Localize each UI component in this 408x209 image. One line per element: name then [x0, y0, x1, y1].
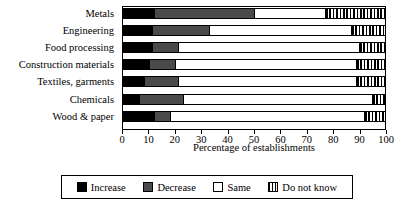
bar-segment-same: [209, 26, 350, 35]
bar-row: [122, 111, 386, 122]
legend-item-increase[interactable]: Increase: [77, 182, 126, 193]
legend-swatch-decrease-icon: [143, 182, 153, 192]
legend-label: Do not know: [282, 182, 337, 193]
stacked-bar: [122, 94, 386, 105]
bar-segment-same: [178, 43, 359, 52]
stacked-bar: [122, 8, 386, 19]
bar-segment-increase: [123, 60, 149, 69]
bar-segment-same: [254, 9, 325, 18]
bar-segment-do-not-know: [325, 9, 385, 18]
stacked-bar: [122, 76, 386, 87]
bar-row: [122, 94, 386, 105]
plot-area: [122, 6, 386, 130]
bar-segment-do-not-know: [372, 95, 385, 104]
bar-segment-increase: [123, 112, 154, 121]
category-label: Wood & paper: [0, 111, 118, 122]
bar-segment-do-not-know: [364, 112, 385, 121]
stacked-bar: [122, 59, 386, 70]
bar-segment-do-not-know: [356, 60, 385, 69]
legend-swatch-dontknow-icon: [268, 182, 278, 192]
y-axis-category-labels: MetalsEngineeringFood processingConstruc…: [0, 6, 118, 130]
stacked-bar: [122, 42, 386, 53]
bar-segment-do-not-know: [359, 43, 385, 52]
bar-segment-same: [175, 60, 356, 69]
bar-row: [122, 25, 386, 36]
bar-segment-increase: [123, 77, 144, 86]
bar-row: [122, 42, 386, 53]
bar-row: [122, 8, 386, 19]
chart-legend: IncreaseDecreaseSameDo not know: [61, 175, 353, 199]
category-label: Food processing: [0, 42, 118, 53]
bar-segment-increase: [123, 9, 154, 18]
legend-swatch-same-icon: [213, 182, 223, 192]
category-label: Construction materials: [0, 59, 118, 70]
chart-figure: MetalsEngineeringFood processingConstruc…: [0, 0, 408, 209]
category-label: Metals: [0, 8, 118, 19]
bar-segment-do-not-know: [356, 77, 385, 86]
bar-segment-decrease: [154, 9, 254, 18]
legend-label: Decrease: [157, 182, 195, 193]
legend-item-dontknow[interactable]: Do not know: [268, 182, 337, 193]
legend-item-decrease[interactable]: Decrease: [143, 182, 195, 193]
bar-row: [122, 76, 386, 87]
legend-swatch-increase-icon: [77, 182, 87, 192]
legend-item-same[interactable]: Same: [213, 182, 250, 193]
bar-segment-increase: [123, 43, 152, 52]
bar-segment-same: [170, 112, 364, 121]
bar-segment-same: [183, 95, 372, 104]
bar-segment-decrease: [149, 60, 175, 69]
stacked-bar: [122, 111, 386, 122]
stacked-bar: [122, 25, 386, 36]
category-label: Chemicals: [0, 94, 118, 105]
bar-segment-decrease: [152, 26, 210, 35]
category-label: Textiles, garments: [0, 76, 118, 87]
bar-segment-decrease: [139, 95, 184, 104]
category-label: Engineering: [0, 25, 118, 36]
bar-row: [122, 59, 386, 70]
bar-segment-decrease: [144, 77, 178, 86]
bar-segment-decrease: [152, 43, 178, 52]
bar-segment-do-not-know: [351, 26, 385, 35]
bar-segment-same: [178, 77, 356, 86]
legend-label: Increase: [91, 182, 126, 193]
x-axis-title: Percentage of establishments: [122, 142, 386, 153]
legend-label: Same: [227, 182, 250, 193]
bar-segment-increase: [123, 95, 139, 104]
bar-segment-increase: [123, 26, 152, 35]
bar-segment-decrease: [154, 112, 170, 121]
